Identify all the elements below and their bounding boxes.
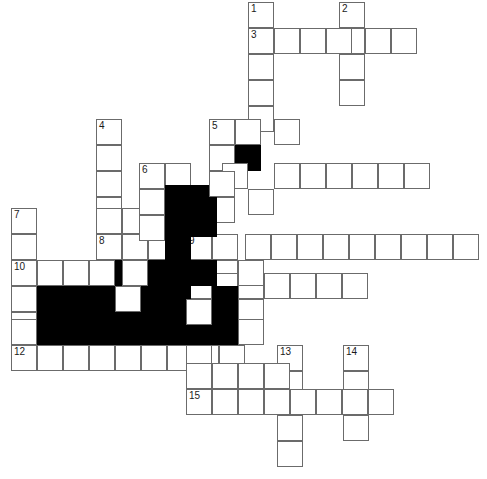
crossword-block-cell xyxy=(212,319,238,345)
crossword-cell[interactable] xyxy=(186,363,212,389)
crossword-cell[interactable] xyxy=(453,234,479,260)
crossword-cell[interactable] xyxy=(339,54,365,80)
clue-number: 8 xyxy=(99,235,105,247)
crossword-cell[interactable] xyxy=(342,389,368,415)
crossword-cell[interactable] xyxy=(212,234,238,260)
crossword-cell[interactable] xyxy=(264,273,290,299)
crossword-cell[interactable] xyxy=(209,171,235,197)
crossword-cell[interactable] xyxy=(401,234,427,260)
crossword-block-cell xyxy=(115,319,141,345)
crossword-block-cell xyxy=(37,319,63,345)
crossword-cell[interactable] xyxy=(404,163,430,189)
crossword-cell[interactable]: 2 xyxy=(339,2,365,28)
crossword-block-cell xyxy=(89,286,115,312)
crossword-cell[interactable] xyxy=(89,345,115,371)
crossword-cell[interactable]: 6 xyxy=(139,163,165,189)
crossword-cell[interactable] xyxy=(290,273,316,299)
crossword-cell[interactable] xyxy=(277,415,303,441)
crossword-grid: 132456710891112131415 xyxy=(0,0,487,479)
crossword-cell[interactable] xyxy=(63,260,89,286)
crossword-block-cell xyxy=(165,185,191,211)
clue-number: 4 xyxy=(99,120,105,132)
crossword-cell[interactable]: 12 xyxy=(11,345,37,371)
crossword-cell[interactable]: 7 xyxy=(11,208,37,234)
crossword-cell[interactable] xyxy=(122,260,148,286)
crossword-cell[interactable] xyxy=(248,80,274,106)
crossword-cell[interactable] xyxy=(264,363,290,389)
crossword-block-cell xyxy=(165,234,191,260)
crossword-cell[interactable] xyxy=(368,389,394,415)
crossword-cell[interactable] xyxy=(274,163,300,189)
crossword-cell[interactable]: 3 xyxy=(248,28,274,54)
crossword-block-cell xyxy=(141,319,167,345)
crossword-cell[interactable] xyxy=(264,389,290,415)
crossword-cell[interactable] xyxy=(300,28,326,54)
crossword-cell[interactable] xyxy=(343,415,369,441)
crossword-cell[interactable] xyxy=(323,234,349,260)
crossword-cell[interactable] xyxy=(115,345,141,371)
crossword-cell[interactable] xyxy=(352,163,378,189)
crossword-cell[interactable] xyxy=(11,319,37,345)
crossword-cell[interactable] xyxy=(115,286,141,312)
crossword-cell[interactable] xyxy=(391,28,417,54)
crossword-cell[interactable] xyxy=(139,189,165,215)
crossword-cell[interactable]: 4 xyxy=(96,119,122,145)
crossword-cell[interactable] xyxy=(11,234,37,260)
crossword-cell[interactable] xyxy=(212,363,238,389)
clue-number: 10 xyxy=(14,261,25,273)
crossword-cell[interactable] xyxy=(96,171,122,197)
crossword-cell[interactable] xyxy=(141,345,167,371)
crossword-cell[interactable] xyxy=(271,234,297,260)
crossword-cell[interactable] xyxy=(11,286,37,312)
crossword-cell[interactable]: 15 xyxy=(186,389,212,415)
crossword-cell[interactable] xyxy=(339,80,365,106)
crossword-cell[interactable] xyxy=(300,163,326,189)
crossword-cell[interactable] xyxy=(238,389,264,415)
crossword-cell[interactable] xyxy=(235,119,261,145)
clue-number: 13 xyxy=(280,346,291,358)
clue-number: 14 xyxy=(346,346,357,358)
crossword-cell[interactable] xyxy=(238,260,264,286)
crossword-cell[interactable] xyxy=(274,28,300,54)
crossword-cell[interactable]: 10 xyxy=(11,260,37,286)
crossword-cell[interactable] xyxy=(274,119,300,145)
crossword-cell[interactable] xyxy=(212,389,238,415)
crossword-cell[interactable] xyxy=(297,234,323,260)
crossword-cell[interactable] xyxy=(37,345,63,371)
crossword-block-cell xyxy=(191,211,217,237)
crossword-cell[interactable] xyxy=(378,163,404,189)
crossword-cell[interactable]: 1 xyxy=(248,2,274,28)
crossword-cell[interactable] xyxy=(277,441,303,467)
crossword-cell[interactable] xyxy=(427,234,453,260)
crossword-cell[interactable] xyxy=(248,189,274,215)
crossword-cell[interactable] xyxy=(139,215,165,241)
crossword-cell[interactable] xyxy=(238,319,264,345)
crossword-block-cell xyxy=(165,260,191,286)
crossword-cell[interactable] xyxy=(316,273,342,299)
crossword-cell[interactable] xyxy=(89,260,115,286)
clue-number: 15 xyxy=(189,390,200,402)
crossword-cell[interactable]: 8 xyxy=(96,234,122,260)
crossword-cell[interactable] xyxy=(96,145,122,171)
crossword-cell[interactable]: 14 xyxy=(343,345,369,371)
crossword-cell[interactable] xyxy=(342,273,368,299)
clue-number: 12 xyxy=(14,346,25,358)
crossword-cell[interactable] xyxy=(375,234,401,260)
crossword-block-cell xyxy=(89,319,115,345)
crossword-cell[interactable] xyxy=(238,363,264,389)
crossword-cell[interactable] xyxy=(316,389,342,415)
crossword-cell[interactable] xyxy=(365,28,391,54)
crossword-cell[interactable] xyxy=(326,28,352,54)
crossword-cell[interactable] xyxy=(349,234,375,260)
crossword-cell[interactable] xyxy=(245,234,271,260)
crossword-cell[interactable] xyxy=(290,389,316,415)
crossword-cell[interactable] xyxy=(96,208,122,234)
crossword-cell[interactable] xyxy=(37,260,63,286)
crossword-cell[interactable] xyxy=(186,299,212,325)
clue-number: 5 xyxy=(212,120,218,132)
crossword-cell[interactable] xyxy=(248,54,274,80)
crossword-cell[interactable] xyxy=(326,163,352,189)
crossword-cell[interactable] xyxy=(63,345,89,371)
crossword-block-cell xyxy=(212,286,238,312)
crossword-cell[interactable]: 5 xyxy=(209,119,235,145)
